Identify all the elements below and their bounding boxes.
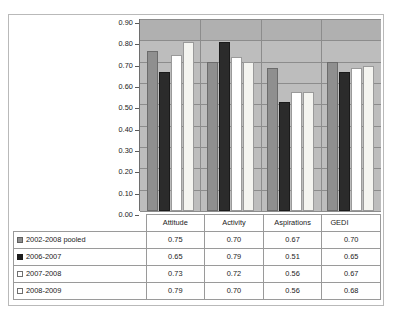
table-cell-value: 0.70: [205, 232, 264, 249]
data-table-body: 2002-2008 pooled0.750.700.670.702006-200…: [14, 232, 381, 300]
bar: [147, 51, 158, 211]
legend-swatch-icon: [17, 271, 23, 277]
table-row: 2007-20080.730.720.560.67: [14, 266, 381, 283]
chart-frame: 0.900.800.700.600.500.400.300.200.100.00…: [8, 14, 384, 306]
table-corner-cell: [14, 215, 147, 232]
table-cell-value: 0.67: [263, 232, 322, 249]
table-column-header: Aspirations: [263, 215, 322, 232]
table-row: 2002-2008 pooled0.750.700.670.70: [14, 232, 381, 249]
bar: [351, 68, 362, 211]
table-cell-value: 0.68: [322, 283, 381, 300]
group-separator: [200, 19, 201, 211]
data-table: AttitudeActivityAspirationsGEDI 2002-200…: [13, 214, 381, 300]
bar: [243, 62, 254, 211]
bar: [159, 72, 170, 211]
gridline: [140, 211, 381, 212]
table-column-header: Attitude: [146, 215, 205, 232]
legend-swatch-icon: [17, 237, 23, 243]
table-cell-value: 0.73: [146, 266, 205, 283]
table-column-header: Activity: [205, 215, 264, 232]
table-cell-value: 0.65: [146, 249, 205, 266]
legend-entry: 2008-2009: [14, 283, 147, 300]
y-axis-tick-label: 0.10: [118, 190, 133, 197]
plot-area: [139, 19, 381, 211]
table-cell-value: 0.72: [205, 266, 264, 283]
legend-swatch-icon: [17, 254, 23, 260]
group-separator: [321, 19, 322, 211]
bar: [291, 92, 302, 211]
y-axis-tick-label: 0.90: [118, 19, 133, 26]
table-row: 2008-20090.790.700.560.68: [14, 283, 381, 300]
y-axis-tick-label: 0.60: [118, 83, 133, 90]
y-axis-tick-label: 0.30: [118, 147, 133, 154]
table-cell-value: 0.56: [263, 266, 322, 283]
table-cell-value: 0.79: [205, 249, 264, 266]
legend-label: 2008-2009: [26, 286, 61, 295]
y-axis-tick-label: 0.80: [118, 41, 133, 48]
bar: [207, 62, 218, 211]
y-axis-tick-label: 0.40: [118, 126, 133, 133]
table-cell-value: 0.70: [205, 283, 264, 300]
y-axis-tick-label: 0.20: [118, 169, 133, 176]
legend-entry: 2002-2008 pooled: [14, 232, 147, 249]
bar-groups: [140, 19, 381, 211]
table-column-header: GEDI: [322, 215, 381, 232]
data-table-head: AttitudeActivityAspirationsGEDI: [14, 215, 381, 232]
y-axis-tick-label: 0.70: [118, 62, 133, 69]
bar: [183, 42, 194, 211]
bar-group: [200, 19, 260, 211]
table-cell-value: 0.65: [322, 249, 381, 266]
table-header-row: AttitudeActivityAspirationsGEDI: [14, 215, 381, 232]
bar: [327, 62, 338, 211]
table-cell-value: 0.70: [322, 232, 381, 249]
data-table-wrapper: AttitudeActivityAspirationsGEDI 2002-200…: [13, 214, 381, 300]
bar: [279, 102, 290, 211]
legend-entry: 2007-2008: [14, 266, 147, 283]
bar-group: [321, 19, 381, 211]
bar-group: [261, 19, 321, 211]
bar-group: [140, 19, 200, 211]
table-cell-value: 0.75: [146, 232, 205, 249]
legend-entry: 2006-2007: [14, 249, 147, 266]
group-separator: [261, 19, 262, 211]
legend-label: 2006-2007: [26, 252, 61, 261]
table-cell-value: 0.79: [146, 283, 205, 300]
table-cell-value: 0.51: [263, 249, 322, 266]
bar: [219, 42, 230, 211]
table-row: 2006-20070.650.790.510.65: [14, 249, 381, 266]
y-axis: 0.900.800.700.600.500.400.300.200.100.00: [105, 19, 139, 215]
plot-area-wrapper: 0.900.800.700.600.500.400.300.200.100.00: [9, 15, 385, 215]
legend-swatch-icon: [17, 288, 23, 294]
y-axis-tick-label: 0.50: [118, 105, 133, 112]
bar: [339, 72, 350, 211]
bar: [303, 92, 314, 211]
table-cell-value: 0.67: [322, 266, 381, 283]
bar: [171, 55, 182, 211]
bar: [231, 57, 242, 211]
table-cell-value: 0.56: [263, 283, 322, 300]
bar: [363, 66, 374, 211]
legend-label: 2002-2008 pooled: [26, 235, 86, 244]
bar: [267, 68, 278, 211]
legend-label: 2007-2008: [26, 269, 61, 278]
